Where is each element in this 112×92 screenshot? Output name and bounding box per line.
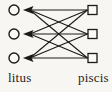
- right-node-square: [88, 54, 97, 63]
- left-node-circle: [9, 5, 19, 15]
- left-node-circle: [9, 53, 19, 63]
- left-node-circle: [9, 29, 19, 39]
- right-node-square: [88, 6, 97, 15]
- right-node-square: [88, 30, 97, 39]
- left-group-label: litus: [8, 71, 31, 85]
- bipartite-graph-figure: litus piscis: [0, 0, 112, 92]
- right-group-label: piscis: [78, 71, 109, 85]
